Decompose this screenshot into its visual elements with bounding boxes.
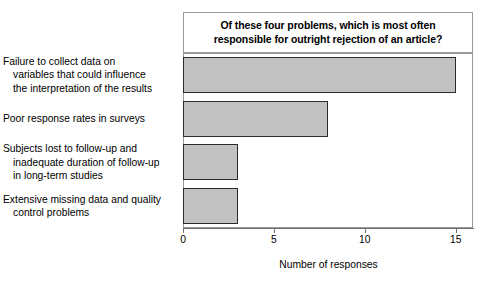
x-axis-tick-label: 0: [163, 234, 203, 245]
category-label: Poor response rates in surveys: [3, 112, 178, 126]
x-axis-tick: [456, 228, 457, 233]
bar: [183, 188, 238, 224]
category-label: Subjects lost to follow-up and inadequat…: [3, 142, 178, 183]
x-axis-tick-label: 15: [436, 234, 476, 245]
chart-title-box: Of these four problems, which is most of…: [183, 12, 473, 53]
category-label: Extensive missing data and quality contr…: [3, 193, 178, 220]
chart-title: Of these four problems, which is most of…: [214, 19, 442, 46]
x-axis-line: [183, 228, 474, 229]
category-label: Failure to collect data on variables tha…: [3, 55, 178, 96]
x-axis-tick-label: 10: [345, 234, 385, 245]
bar: [183, 101, 328, 137]
bar: [183, 144, 238, 180]
x-axis-title: Number of responses: [183, 259, 474, 270]
category-labels: Failure to collect data on variables tha…: [0, 53, 183, 228]
x-axis-tick: [274, 228, 275, 233]
x-axis-tick: [365, 228, 366, 233]
bar-chart-figure: Of these four problems, which is most of…: [0, 0, 496, 285]
x-axis-tick: [183, 228, 184, 233]
bar: [183, 57, 456, 93]
bars-layer: [183, 53, 473, 228]
x-axis-tick-label: 5: [254, 234, 294, 245]
